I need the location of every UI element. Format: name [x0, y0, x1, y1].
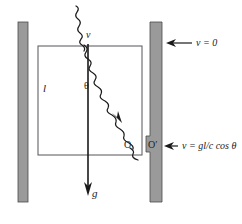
physics-figure: v l θ O O′ g v = 0 v = gl/c cos θ	[0, 0, 242, 224]
label-origin-o: O	[124, 140, 131, 150]
label-wall-bottom-velocity-text: v = gl/c cos θ	[182, 140, 236, 151]
label-gravity-g: g	[92, 188, 98, 199]
label-origin-o-prime: O′	[148, 140, 157, 150]
label-box-height: l	[43, 83, 46, 94]
left-wall-body	[18, 22, 28, 202]
ray-segment-above-box	[76, 6, 85, 51]
ray-segment-in-box	[84, 45, 133, 149]
label-wall-top-velocity-text: v = 0	[196, 37, 217, 48]
figure-canvas	[0, 0, 242, 224]
label-angle-theta: θ	[84, 81, 89, 91]
wall-top-pointer	[166, 39, 192, 47]
right-wall-body	[146, 22, 162, 202]
label-wall-top-velocity: v = 0	[196, 38, 217, 48]
label-wall-bottom-velocity: v = gl/c cos θ	[182, 141, 236, 151]
wall-bottom-pointer	[164, 142, 178, 150]
gravity-arrow	[84, 44, 92, 196]
label-source-velocity: v	[86, 30, 90, 40]
left-wall	[18, 22, 28, 202]
light-ray-arrowhead	[112, 111, 122, 123]
right-wall	[146, 22, 162, 202]
